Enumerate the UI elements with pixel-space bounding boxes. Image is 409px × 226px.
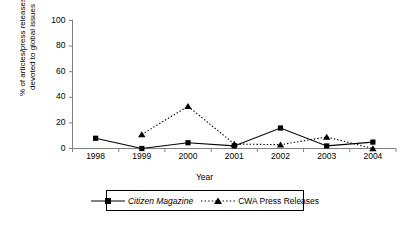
chart-legend: Citizen Magazine CWA Press Releases (106, 190, 304, 211)
data-point-marker (185, 140, 190, 145)
data-point-marker (184, 103, 191, 109)
data-point-marker (139, 146, 144, 151)
data-point-marker (93, 136, 98, 141)
data-point-marker (324, 143, 329, 148)
data-point-marker (278, 125, 283, 130)
legend-item-cwa-press-releases: CWA Press Releases (201, 196, 319, 206)
legend-label-citizen-magazine: Citizen Magazine (128, 196, 193, 206)
data-point-marker (370, 140, 375, 145)
line-chart: % of articles/press releases devoted to … (0, 0, 409, 226)
legend-label-cwa-press-releases: CWA Press Releases (238, 196, 319, 206)
legend-item-citizen-magazine: Citizen Magazine (91, 196, 193, 206)
data-point-marker (323, 134, 330, 140)
data-point-marker (138, 131, 145, 137)
legend-swatch-dotted-triangle-icon (201, 196, 235, 206)
legend-swatch-solid-square-icon (91, 196, 125, 206)
series-line-2 (142, 106, 373, 148)
x-axis-title: Year (0, 172, 409, 182)
